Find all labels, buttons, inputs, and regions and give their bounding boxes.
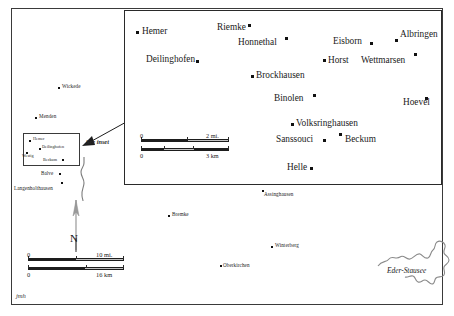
map-point-marker [168,215,170,217]
map-place-label: Volksringhausen [296,119,358,128]
inset-scale-miles-end-label: 2 mi. [206,132,219,139]
lake-label-eder-stausee: Eder-Stausee [387,266,426,275]
see-inset-leader-line [78,120,130,150]
map-place-label: Binolen [274,94,303,103]
map-point-marker [220,265,222,267]
map-place-label: Brockhausen [256,71,305,80]
inset-scale-km-end-label: 3 km [206,152,219,159]
map-place-label: Menden [39,114,56,119]
cartographer-signature: jmh [16,292,26,299]
scale-miles-end-label: 10 mi. [96,251,112,258]
map-place-label: Deilinghofen [146,55,195,64]
map-point-marker [285,37,288,40]
map-point-marker [323,139,326,142]
map-place-label: Bremke [172,212,189,217]
map-place-label: Balve [41,171,53,176]
map-place-label: Beckum [345,135,376,144]
map-point-marker [59,173,61,175]
map-place-label: Helle [287,163,307,172]
north-arrow-letter: N [70,232,78,244]
map-point-marker [313,94,316,97]
inset-scale-km-zero-label: 0 [140,152,143,159]
scale-km-zero-label: 0 [27,271,30,278]
map-point-marker [310,167,313,170]
map-canvas: Eder-Stausee N See inset 0 10 mi. [0,0,454,316]
map-place-label: Assinghausen [264,192,294,197]
map-place-label: Winterberg [275,243,299,248]
map-place-label: Eisborn [333,37,362,46]
map-point-marker [29,140,31,142]
map-point-marker [414,53,417,56]
map-point-marker [339,133,342,136]
map-place-label: Horst [328,56,349,65]
map-place-label: Oberkirchen [223,263,250,268]
inset-scale-miles-zero-label: 0 [140,132,143,139]
map-point-marker [271,246,273,248]
map-place-label: Hemer [33,137,44,141]
map-place-label: Deilinghofen [42,145,64,149]
detail-inset-panel: 0 2 mi. 0 3 km HemerRiemkeHonnethalEisbo… [124,10,442,185]
map-place-label: Langenholthausen [14,186,53,191]
map-place-label: Riemke [217,23,246,32]
map-point-marker [323,59,326,62]
map-point-marker [248,24,251,27]
map-place-label: Beckum [43,158,57,162]
map-point-marker [39,148,41,150]
map-place-label: Albringen [400,30,438,39]
map-place-label: Wettmarsen [361,56,405,65]
map-point-marker [35,117,37,119]
map-point-marker [251,75,254,78]
inset-scale-miles-track [141,139,229,142]
map-place-label: Hemer [142,27,167,36]
map-place-label: Hoevel [403,98,430,107]
north-arrow-icon [66,198,86,254]
see-inset-annotation: See inset [86,138,109,145]
map-point-marker [370,42,373,45]
map-point-marker [62,159,64,161]
map-place-label: Sanssouci [276,135,313,144]
map-point-marker [196,60,199,63]
map-place-label: Westig [22,154,34,158]
map-point-marker [61,182,63,184]
locator-rectangle: HemerDeilinghofenWestigBeckum [23,133,80,166]
map-place-label: Wickede [62,84,81,89]
map-point-marker [291,123,294,126]
map-point-marker [136,31,139,34]
scale-km-end-label: 16 km [96,271,112,278]
lake-shape [376,236,452,288]
map-point-marker [395,39,398,42]
map-point-marker [58,87,60,89]
map-place-label: Honnethal [238,38,277,47]
scale-miles-zero-label: 0 [27,251,30,258]
